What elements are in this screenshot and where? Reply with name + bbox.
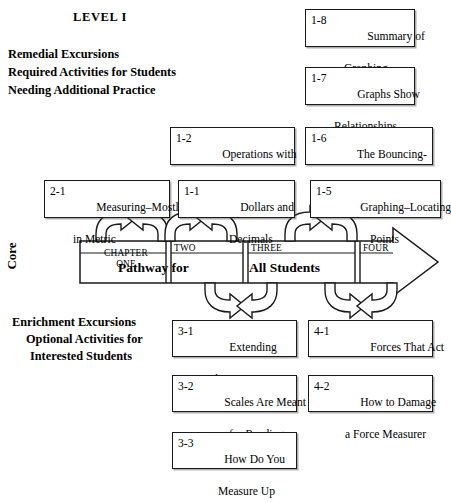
topic-box-4-2-title-line1: How to Damage	[360, 396, 436, 409]
topic-box-3-3-title-line2: Measure Up	[201, 484, 285, 500]
topic-box-1-8[interactable]: 1-8 Summary of Graphing	[305, 9, 415, 47]
topic-box-1-1-title-line2: Decimals	[217, 232, 294, 248]
remedial-heading: Remedial Excursions Required Activities …	[8, 45, 223, 99]
topic-box-3-1-number: 3-1	[178, 324, 193, 340]
topic-box-1-8-title-line1: Summary of	[367, 30, 425, 43]
level-title: LEVEL I	[0, 10, 200, 25]
topic-box-4-1-number: 4-1	[314, 324, 329, 340]
topic-box-4-1[interactable]: 4-1 Forces That Act at a Distance	[308, 320, 433, 357]
topic-box-1-6[interactable]: 1-6 The Bouncing- Ball Graph	[305, 127, 433, 165]
remedial-line-3: Needing Additional Practice	[8, 81, 223, 99]
topic-box-3-3[interactable]: 3-3 How Do You Measure Up	[172, 432, 297, 469]
topic-box-2-1-number: 2-1	[50, 184, 65, 200]
topic-box-1-2-title-line1: Operations with	[222, 148, 296, 161]
topic-box-2-1-title-line2: in Metric	[73, 232, 184, 248]
topic-box-4-1-title-line1: Forces That Act	[370, 341, 444, 354]
topic-box-1-5[interactable]: 1-5 Graphing–Locating Points	[310, 180, 441, 218]
core-label: Core	[4, 232, 20, 280]
topic-box-4-2-title-line2: a Force Measurer	[337, 427, 436, 443]
topic-box-1-5-title: Graphing–Locating Points	[337, 184, 451, 280]
down-arrow-to-4-1-right-leg	[357, 283, 397, 318]
down-arrow-to-3-1-left-leg	[205, 283, 245, 318]
topic-box-1-5-title-line1: Graphing–Locating	[360, 201, 451, 214]
topic-box-3-1[interactable]: 3-1 Extending the Senses	[172, 320, 297, 357]
topic-box-3-3-title: How Do You Measure Up	[201, 436, 285, 502]
topic-box-1-7-number: 1-7	[311, 71, 326, 87]
topic-box-1-1-title: Dollars and Decimals	[217, 184, 294, 280]
topic-box-3-3-number: 3-3	[178, 436, 193, 452]
topic-box-1-8-number: 1-8	[311, 13, 326, 29]
remedial-line-2: Required Activities for Students	[8, 63, 223, 81]
topic-box-2-1-title-line1: Measuring–Mostly	[96, 201, 184, 214]
topic-box-1-5-number: 1-5	[316, 184, 331, 200]
topic-box-3-2-title-line1: Scales Are Meant	[224, 396, 306, 409]
down-arrow-to-4-1-left-leg	[325, 283, 365, 318]
topic-box-1-1-title-line1: Dollars and	[240, 201, 294, 214]
topic-box-4-2-title: How to Damage a Force Measurer	[337, 379, 436, 475]
topic-box-1-6-number: 1-6	[311, 131, 326, 147]
topic-box-4-2[interactable]: 4-2 How to Damage a Force Measurer	[308, 375, 433, 412]
topic-box-2-1[interactable]: 2-1 Measuring–Mostly in Metric	[44, 180, 170, 218]
topic-box-3-1-title-line1: Extending	[229, 341, 277, 354]
topic-box-1-7-title-line1: Graphs Show	[357, 88, 420, 101]
topic-box-1-5-title-line2: Points	[337, 232, 451, 248]
topic-box-1-2[interactable]: 1-2 Operations with Decimals	[170, 127, 295, 165]
topic-box-1-2-number: 1-2	[176, 131, 191, 147]
topic-box-2-1-title: Measuring–Mostly in Metric	[73, 184, 184, 280]
topic-box-3-2-number: 3-2	[178, 379, 193, 395]
topic-box-1-1-number: 1-1	[184, 184, 199, 200]
topic-box-1-7[interactable]: 1-7 Graphs Show Relationships	[305, 67, 415, 105]
topic-box-1-6-title-line1: The Bouncing-	[357, 148, 427, 161]
topic-box-1-1[interactable]: 1-1 Dollars and Decimals	[178, 180, 295, 218]
topic-box-3-2[interactable]: 3-2 Scales Are Meant for Reading	[172, 375, 297, 412]
remedial-line-1: Remedial Excursions	[8, 45, 223, 63]
down-arrow-to-3-1-right-leg	[237, 283, 277, 318]
topic-box-3-3-title-line1: How Do You	[224, 453, 285, 466]
topic-box-4-2-number: 4-2	[314, 379, 329, 395]
